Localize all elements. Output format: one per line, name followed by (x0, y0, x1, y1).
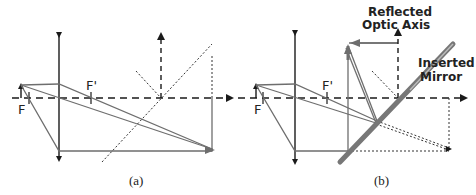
caption-a: (a) (129, 173, 143, 188)
normal-dotted (136, 71, 161, 98)
reflected-axis-label-2: Optic Axis (362, 18, 430, 32)
mirror-position-dotted (102, 44, 212, 162)
panel-b: F F' Reflected (238, 5, 475, 188)
caption-b: (b) (374, 173, 389, 188)
focal-back-label-b: F' (322, 78, 333, 93)
mirror-label-1: Inserted (418, 56, 475, 70)
mirror-label-2: Mirror (420, 70, 462, 84)
focal-back-label: F' (86, 78, 97, 93)
rays (21, 84, 212, 151)
panel-a: F F' (a) (12, 34, 232, 188)
reflected-axis-label-1: Reflected (368, 5, 432, 19)
optics-diagram: F F' (a) F F' (0, 0, 476, 195)
focal-front-label: F (18, 102, 25, 117)
focal-front-label-b: F (254, 102, 261, 117)
